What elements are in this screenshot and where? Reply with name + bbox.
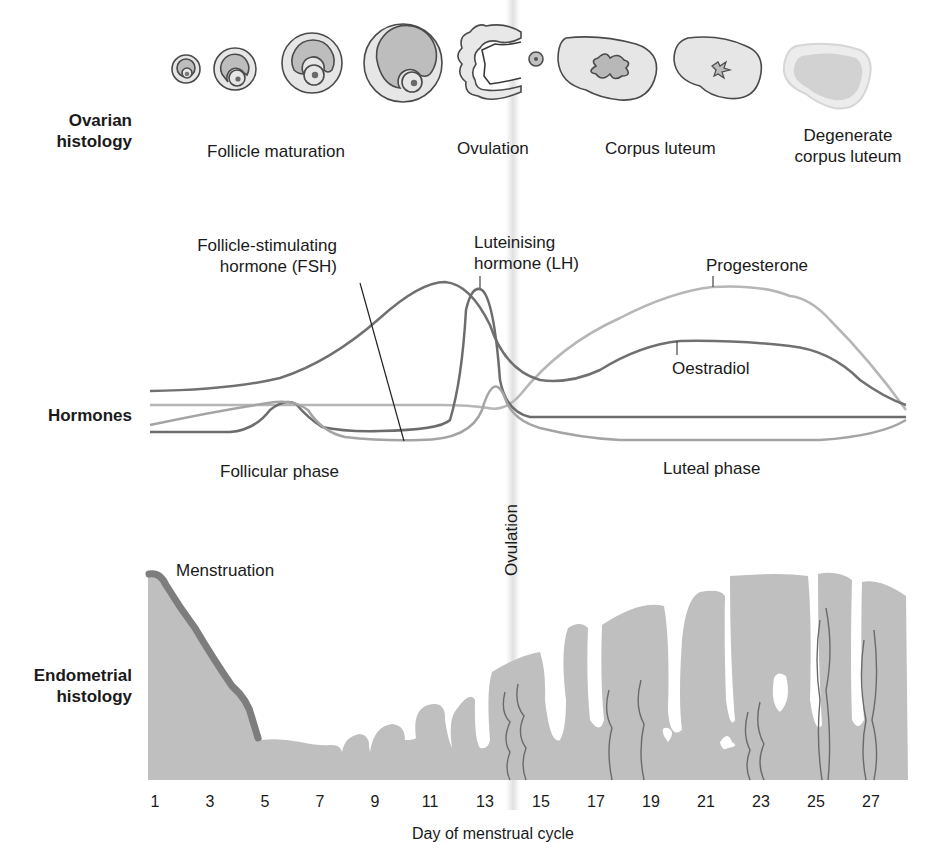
tick-7: 7 <box>316 793 325 811</box>
tick-9: 9 <box>371 793 380 811</box>
label-menstruation: Menstruation <box>176 560 274 581</box>
tick-3: 3 <box>206 793 215 811</box>
tick-13: 13 <box>476 793 494 811</box>
tick-27: 27 <box>862 793 880 811</box>
tick-21: 21 <box>697 793 715 811</box>
tick-15: 15 <box>532 793 550 811</box>
tick-11: 11 <box>422 793 439 811</box>
tick-1: 1 <box>151 793 160 811</box>
tick-23: 23 <box>752 793 770 811</box>
endometrium-tissue <box>148 572 908 780</box>
tick-19: 19 <box>642 793 660 811</box>
tick-5: 5 <box>261 793 270 811</box>
tick-17: 17 <box>587 793 605 811</box>
endometrium-illustration <box>0 0 927 864</box>
x-axis-label: Day of menstrual cycle <box>412 823 574 844</box>
tick-25: 25 <box>807 793 825 811</box>
